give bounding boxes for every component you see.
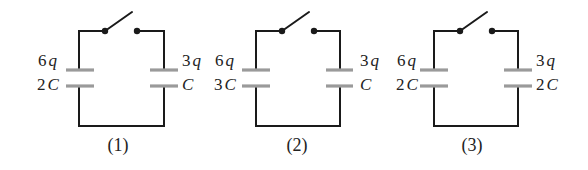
wire-bottom xyxy=(79,86,164,126)
circuit-1: 6q 2C 3q C (1) xyxy=(37,12,202,156)
left-charge-label: 6q xyxy=(397,51,417,70)
right-charge-label: 3q xyxy=(182,51,202,70)
right-charge-label: 3q xyxy=(360,51,380,70)
left-capacitance-label: 3C xyxy=(214,75,237,94)
right-charge-label: 3q xyxy=(536,51,556,70)
switch-blade xyxy=(105,12,132,31)
switch-blade xyxy=(460,12,487,31)
wire-top-right xyxy=(137,31,164,70)
right-capacitance-label: C xyxy=(360,75,372,94)
switch-blade xyxy=(282,12,309,31)
switch-pivot xyxy=(102,28,108,34)
left-charge-label: 6q xyxy=(38,51,58,70)
switch-contact xyxy=(134,28,140,34)
circuit-caption: (2) xyxy=(287,135,308,156)
circuit-caption: (1) xyxy=(108,135,129,156)
circuit-caption: (3) xyxy=(462,135,483,156)
wire-bottom xyxy=(434,86,518,126)
wire-top-left xyxy=(434,31,460,70)
capacitor-diagram: 6q 2C 3q C (1) 6q 3C 3q C (2) 6q 2C xyxy=(0,0,588,170)
wire-top-left xyxy=(256,31,282,70)
wire-top-right xyxy=(492,31,518,70)
left-capacitance-label: 2C xyxy=(396,75,419,94)
switch-pivot xyxy=(279,28,285,34)
wire-top-right xyxy=(314,31,340,70)
left-capacitance-label: 2C xyxy=(37,75,60,94)
wire-top-left xyxy=(79,31,105,70)
right-capacitance-label: 2C xyxy=(536,75,559,94)
switch-contact xyxy=(311,28,317,34)
left-charge-label: 6q xyxy=(215,51,235,70)
switch-contact xyxy=(489,28,495,34)
circuit-3: 6q 2C 3q 2C (3) xyxy=(396,12,559,156)
right-capacitance-label: C xyxy=(182,75,194,94)
circuit-2: 6q 3C 3q C (2) xyxy=(214,12,380,156)
wire-bottom xyxy=(256,86,340,126)
switch-pivot xyxy=(457,28,463,34)
